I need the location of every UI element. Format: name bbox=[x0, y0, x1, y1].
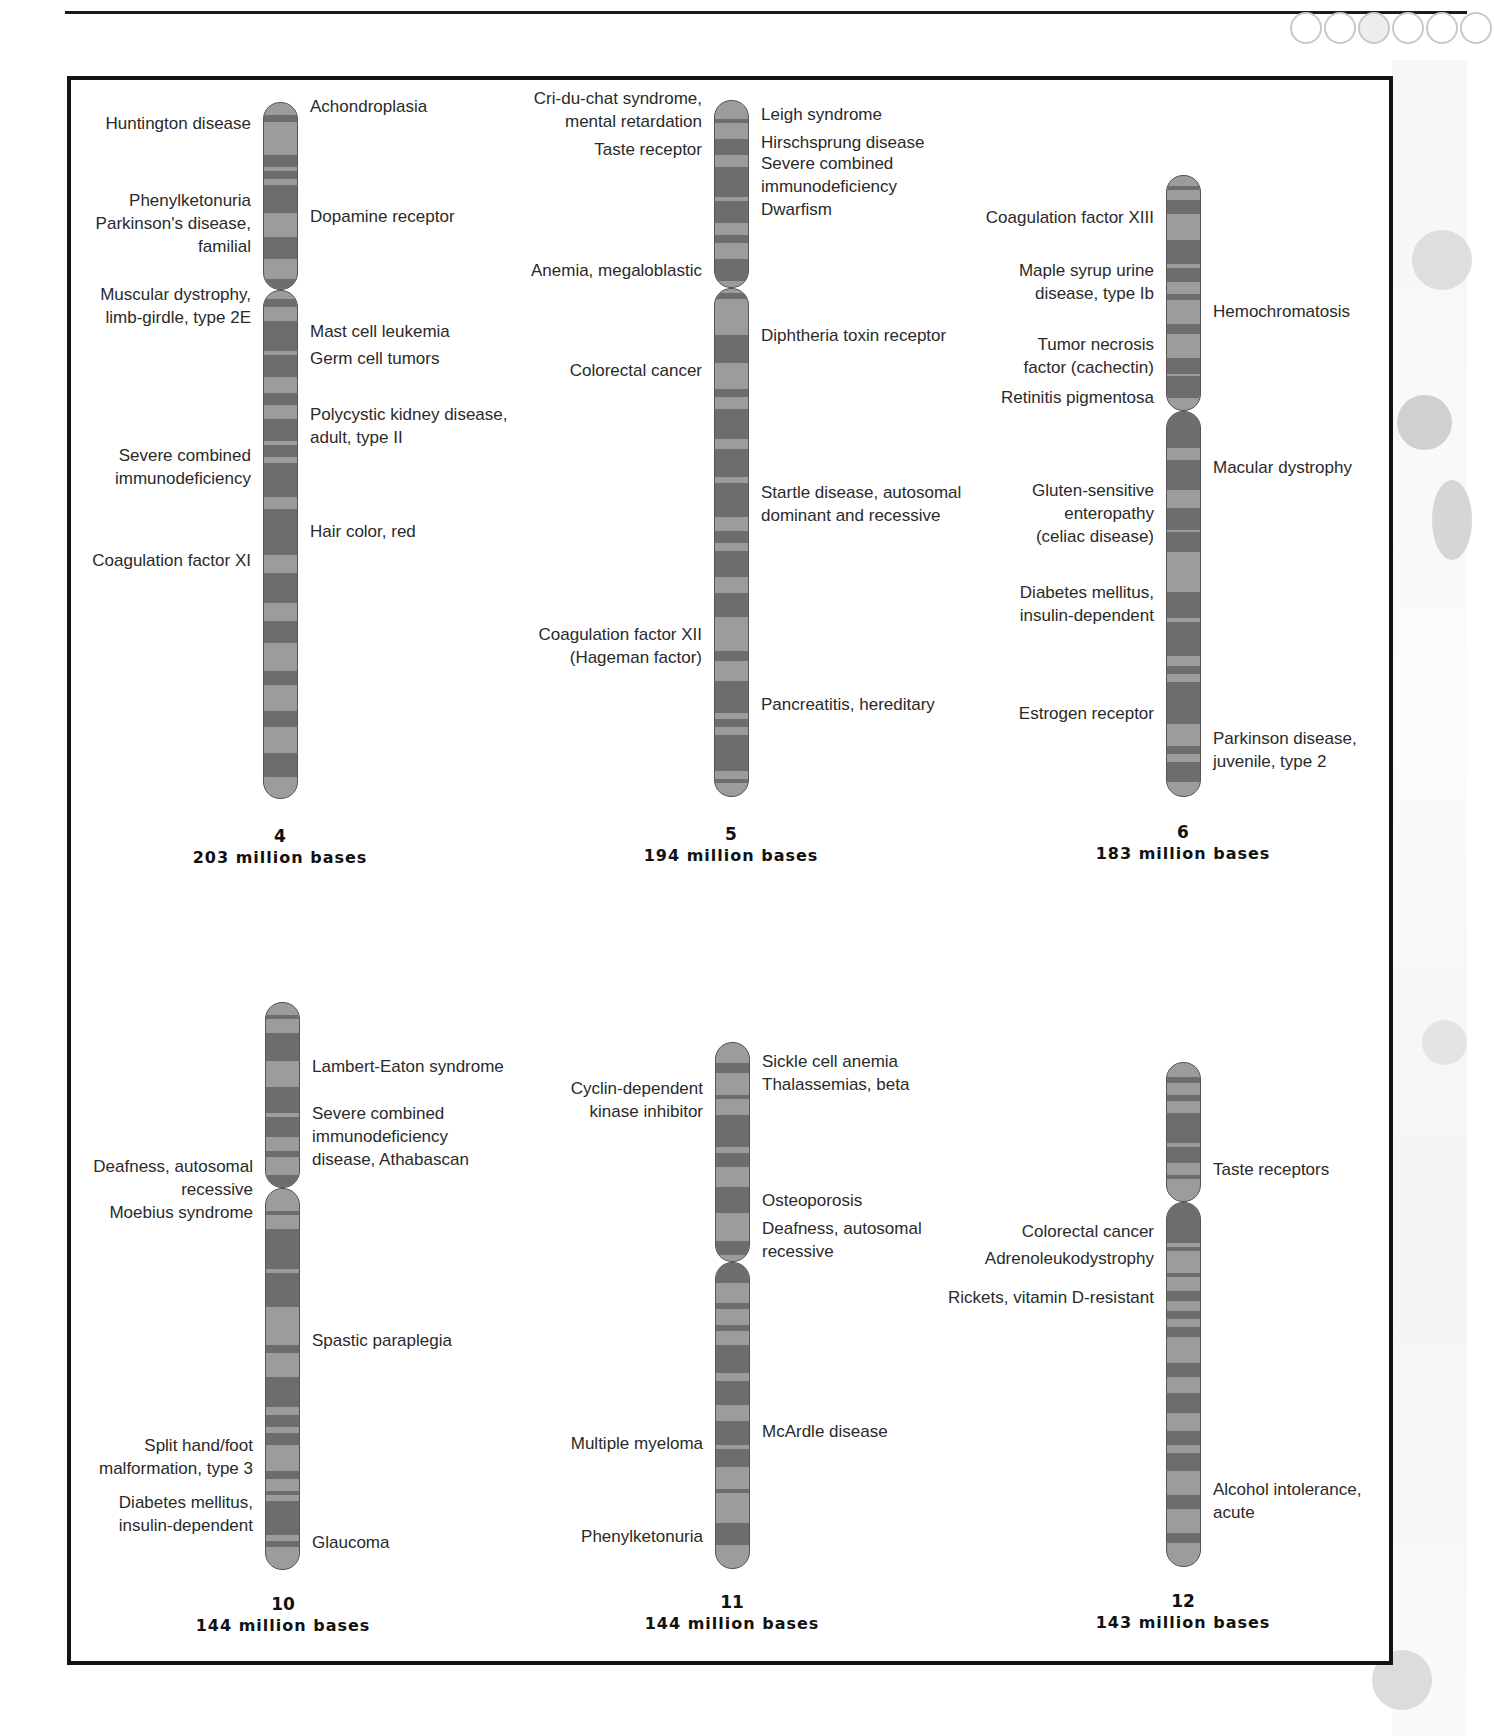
gene-label: Muscular dystrophy, bbox=[100, 283, 251, 306]
gene-label: Severe combined bbox=[312, 1102, 444, 1125]
molecule-ball-icon bbox=[1397, 395, 1452, 450]
caption-chromosome-6: 6 183 million bases bbox=[1063, 821, 1303, 865]
gene-label: (celiac disease) bbox=[1036, 525, 1154, 548]
caption-chromosome-4: 4 203 million bases bbox=[160, 825, 400, 869]
gene-label: McArdle disease bbox=[762, 1420, 888, 1443]
chromosome-arm-q bbox=[715, 1262, 750, 1569]
gene-label: Rickets, vitamin D-resistant bbox=[948, 1286, 1154, 1309]
chromosome-number: 5 bbox=[611, 823, 851, 845]
caption-chromosome-10: 10 144 million bases bbox=[163, 1593, 403, 1637]
gene-label: Achondroplasia bbox=[310, 95, 427, 118]
top-rule bbox=[65, 11, 1467, 14]
chromosome-number: 11 bbox=[612, 1591, 852, 1613]
gene-label: Pancreatitis, hereditary bbox=[761, 693, 935, 716]
gene-label: malformation, type 3 bbox=[99, 1457, 253, 1480]
gene-label: Sickle cell anemia bbox=[762, 1050, 898, 1073]
gene-label: Adrenoleukodystrophy bbox=[985, 1247, 1154, 1270]
gene-label: kinase inhibitor bbox=[590, 1100, 703, 1123]
molecule-ball-icon bbox=[1422, 1020, 1467, 1065]
gene-label: juvenile, type 2 bbox=[1213, 750, 1326, 773]
chromosome-arm-p bbox=[715, 1042, 750, 1262]
gene-label: Diphtheria toxin receptor bbox=[761, 324, 946, 347]
gene-label: Leigh syndrome bbox=[761, 103, 882, 126]
gene-label: Macular dystrophy bbox=[1213, 456, 1352, 479]
gene-label: insulin-dependent bbox=[1020, 604, 1154, 627]
chromosome-arm-p bbox=[1166, 1062, 1201, 1202]
gene-label: Cri-du-chat syndrome, bbox=[534, 87, 702, 110]
gene-label: recessive bbox=[762, 1240, 834, 1263]
chromosome-number: 6 bbox=[1063, 821, 1303, 843]
chromosome-size: 144 million bases bbox=[163, 1615, 403, 1637]
chromosome-arm-q bbox=[1166, 411, 1201, 797]
gene-label: Spastic paraplegia bbox=[312, 1329, 452, 1352]
gene-label: Colorectal cancer bbox=[1022, 1220, 1154, 1243]
gene-label: Hair color, red bbox=[310, 520, 416, 543]
gene-label: Cyclin-dependent bbox=[571, 1077, 703, 1100]
chromosome-arm-p bbox=[265, 1002, 300, 1188]
gene-label: Tumor necrosis bbox=[1037, 333, 1154, 356]
gene-label: Coagulation factor XI bbox=[92, 549, 251, 572]
gene-label: Coagulation factor XIII bbox=[986, 206, 1154, 229]
circle-icon bbox=[1426, 12, 1458, 44]
gene-label: limb-girdle, type 2E bbox=[105, 306, 251, 329]
gene-label: Taste receptor bbox=[594, 138, 702, 161]
gene-label: Osteoporosis bbox=[762, 1189, 862, 1212]
gene-label: Coagulation factor XII bbox=[539, 623, 702, 646]
chromosome-number: 4 bbox=[160, 825, 400, 847]
circle-icon bbox=[1460, 12, 1492, 44]
gene-label: dominant and recessive bbox=[761, 504, 941, 527]
gene-label: Startle disease, autosomal bbox=[761, 481, 961, 504]
caption-chromosome-11: 11 144 million bases bbox=[612, 1591, 852, 1635]
chromosome-arm-p bbox=[714, 100, 749, 288]
chromosome-size: 203 million bases bbox=[160, 847, 400, 869]
gene-label: Germ cell tumors bbox=[310, 347, 439, 370]
gene-label: Gluten-sensitive bbox=[1032, 479, 1154, 502]
gene-label: Severe combined bbox=[761, 152, 893, 175]
chromosome-11 bbox=[715, 1042, 750, 1569]
gene-label: Mast cell leukemia bbox=[310, 320, 450, 343]
chromosome-10 bbox=[265, 1002, 300, 1570]
gene-label: (Hageman factor) bbox=[570, 646, 702, 669]
gene-label: Multiple myeloma bbox=[571, 1432, 703, 1455]
circle-icon bbox=[1324, 12, 1356, 44]
gene-label: Deafness, autosomal bbox=[93, 1155, 253, 1178]
gene-label: insulin-dependent bbox=[119, 1514, 253, 1537]
gene-label: Retinitis pigmentosa bbox=[1001, 386, 1154, 409]
gene-label: immunodeficiency bbox=[312, 1125, 448, 1148]
gene-label: disease, type Ib bbox=[1035, 282, 1154, 305]
chromosome-size: 183 million bases bbox=[1063, 843, 1303, 865]
gene-label: Huntington disease bbox=[105, 112, 251, 135]
gene-label: Colorectal cancer bbox=[570, 359, 702, 382]
chromosome-arm-q bbox=[263, 290, 298, 799]
caption-chromosome-12: 12 143 million bases bbox=[1063, 1590, 1303, 1634]
gene-label: mental retardation bbox=[565, 110, 702, 133]
circle-icon bbox=[1290, 12, 1322, 44]
circle-icon bbox=[1358, 12, 1390, 44]
gene-label: Polycystic kidney disease, bbox=[310, 403, 507, 426]
gene-label: Moebius syndrome bbox=[109, 1201, 253, 1224]
gene-label: adult, type II bbox=[310, 426, 403, 449]
gene-label: Estrogen receptor bbox=[1019, 702, 1154, 725]
gene-label: Deafness, autosomal bbox=[762, 1217, 922, 1240]
molecule-ball-icon bbox=[1432, 480, 1472, 560]
gene-label: immunodeficiency bbox=[761, 175, 897, 198]
gene-label: Diabetes mellitus, bbox=[119, 1491, 253, 1514]
chromosome-arm-q bbox=[265, 1188, 300, 1570]
chromosome-number: 12 bbox=[1063, 1590, 1303, 1612]
gene-label: immunodeficiency bbox=[115, 467, 251, 490]
chromosome-4 bbox=[263, 102, 298, 799]
gene-label: familial bbox=[198, 235, 251, 258]
chromosome-number: 10 bbox=[163, 1593, 403, 1615]
gene-label: enteropathy bbox=[1064, 502, 1154, 525]
gene-label: disease, Athabascan bbox=[312, 1148, 469, 1171]
chromosome-size: 144 million bases bbox=[612, 1613, 852, 1635]
chromosome-size: 194 million bases bbox=[611, 845, 851, 867]
gene-label: Alcohol intolerance, bbox=[1213, 1478, 1361, 1501]
gene-label: Glaucoma bbox=[312, 1531, 389, 1554]
chromosome-arm-p bbox=[1166, 175, 1201, 411]
molecule-ball-icon bbox=[1412, 230, 1472, 290]
chromosome-5 bbox=[714, 100, 749, 797]
gene-label: Anemia, megaloblastic bbox=[531, 259, 702, 282]
chromosome-arm-q bbox=[1166, 1202, 1201, 1567]
gene-label: Taste receptors bbox=[1213, 1158, 1329, 1181]
